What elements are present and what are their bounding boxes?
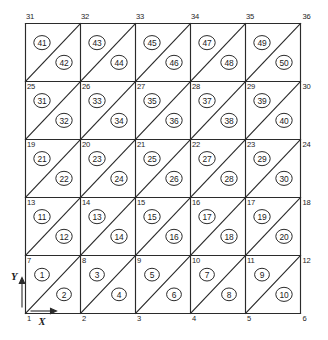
node-number-label: 10: [192, 256, 200, 265]
node-number-label: 7: [27, 256, 31, 265]
cell-diagonal: [81, 24, 136, 82]
element-number-label: 9: [260, 270, 265, 280]
mesh-canvas: 1234567891011121314151617181920212223242…: [0, 0, 328, 340]
node-number-label: 5: [247, 314, 251, 323]
node-number-label: 22: [192, 140, 200, 149]
node-number-label: 32: [81, 12, 89, 21]
node-number-label: 3: [137, 314, 141, 323]
finite-element-mesh-figure: 1234567891011121314151617181920212223242…: [0, 0, 328, 340]
element-number-label: 39: [258, 96, 267, 106]
element-number-label: 36: [170, 116, 179, 126]
axis-indicators: X Y: [11, 271, 57, 327]
element-number-label: 2: [62, 290, 67, 300]
element-number-label: 19: [258, 212, 267, 222]
element-number-label: 7: [205, 270, 210, 280]
node-number-label: 18: [303, 198, 311, 207]
element-number-label: 1: [40, 270, 45, 280]
element-number-label: 22: [60, 174, 69, 184]
node-number-label: 19: [27, 140, 35, 149]
element-number-label: 30: [280, 174, 289, 184]
element-number-label: 38: [225, 116, 234, 126]
element-number-label: 26: [170, 174, 179, 184]
node-number-label: 31: [26, 12, 34, 21]
element-number-label: 18: [225, 232, 234, 242]
element-number-label: 23: [93, 154, 102, 164]
node-number-label: 2: [82, 314, 86, 323]
node-number-label: 36: [303, 12, 311, 21]
y-axis-label: Y: [11, 271, 19, 282]
node-number-label: 12: [303, 256, 311, 265]
node-number-label: 17: [247, 198, 255, 207]
element-number-label: 13: [93, 212, 102, 222]
element-number-label: 40: [280, 116, 289, 126]
element-number-label: 15: [148, 212, 157, 222]
node-number-label: 11: [247, 256, 254, 265]
element-number-label: 41: [38, 38, 47, 48]
element-number-label: 34: [115, 116, 124, 126]
element-number-label: 50: [280, 58, 289, 68]
node-number-label: 33: [136, 12, 144, 21]
node-number-label: 8: [82, 256, 86, 265]
x-axis-arrow-head: [51, 308, 57, 313]
node-number-label: 4: [192, 314, 196, 323]
element-number-label: 12: [60, 232, 69, 242]
node-number-label: 26: [82, 82, 90, 91]
element-number-label: 4: [117, 290, 122, 300]
node-number-label: 9: [137, 256, 141, 265]
node-number-label: 27: [137, 82, 145, 91]
element-number-label: 37: [203, 96, 212, 106]
element-number-label: 5: [150, 270, 155, 280]
node-number-label: 21: [137, 140, 145, 149]
element-number-label: 48: [225, 58, 234, 68]
node-number-label: 30: [303, 82, 311, 91]
element-number-label: 33: [93, 96, 102, 106]
x-axis-label: X: [38, 316, 47, 327]
node-number-label: 14: [82, 198, 90, 207]
element-number-label: 11: [38, 212, 47, 222]
node-number-label: 13: [27, 198, 35, 207]
element-number-label: 43: [93, 38, 102, 48]
element-number-label: 35: [148, 96, 157, 106]
node-number-label: 24: [303, 140, 311, 149]
cell-diagonal: [136, 256, 191, 314]
element-number-label: 44: [115, 58, 124, 68]
element-number-label: 27: [203, 154, 212, 164]
node-number-label: 20: [82, 140, 90, 149]
element-number-label: 42: [60, 58, 69, 68]
node-number-label: 6: [303, 314, 307, 323]
element-number-label: 20: [280, 232, 289, 242]
node-number-label: 16: [192, 198, 200, 207]
element-number-label: 16: [170, 232, 179, 242]
element-number-label: 45: [148, 38, 157, 48]
node-number-label: 1: [27, 314, 31, 323]
element-number-label: 32: [60, 116, 69, 126]
node-number-label: 35: [246, 12, 254, 21]
element-number-label: 49: [258, 38, 267, 48]
element-number-label: 10: [280, 290, 289, 300]
element-number-label: 24: [115, 174, 124, 184]
cell-diagonal: [191, 24, 246, 82]
cell-diagonal: [26, 24, 81, 82]
node-number-label: 34: [191, 12, 199, 21]
element-number-label: 25: [148, 154, 157, 164]
element-number-label: 47: [203, 38, 212, 48]
element-number-label: 29: [258, 154, 267, 164]
element-number-label: 14: [115, 232, 124, 242]
cell-diagonal: [26, 256, 81, 314]
element-number-label: 21: [38, 154, 47, 164]
node-number-label: 25: [27, 82, 35, 91]
element-number-label: 8: [227, 290, 232, 300]
element-number-label: 46: [170, 58, 179, 68]
node-number-label: 28: [192, 82, 200, 91]
node-number-label: 15: [137, 198, 145, 207]
cell-diagonal: [246, 24, 301, 82]
element-number-label: 3: [95, 270, 100, 280]
element-number-label: 28: [225, 174, 234, 184]
cell-diagonal: [81, 256, 136, 314]
cell-diagonal: [136, 24, 191, 82]
node-number-label: 29: [247, 82, 255, 91]
element-number-label: 6: [172, 290, 177, 300]
element-number-label: 17: [203, 212, 212, 222]
y-axis-arrow-head: [19, 278, 24, 284]
element-number-label: 31: [38, 96, 47, 106]
